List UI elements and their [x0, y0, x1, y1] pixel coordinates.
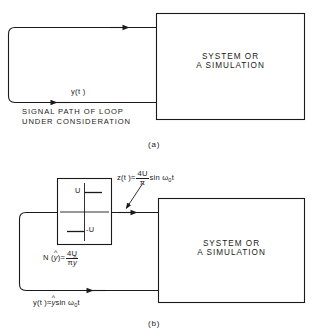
feedback-signal-label-a: y(t )	[71, 88, 86, 97]
df-denominator: π^y	[66, 259, 78, 267]
feedback-signal-expression-b: y(t )≈^ysin ω0t	[33, 299, 80, 308]
z-signal-name: z(t )	[117, 173, 131, 182]
z-trig: sin ω	[150, 173, 169, 182]
relay-output-signal-expression: z(t )≈4Uπsin ω0t	[117, 170, 174, 187]
system-block-a-line2: A SIMULATION	[156, 61, 305, 70]
signal-path-note-line1: SIGNAL PATH OF LOOP	[22, 107, 131, 117]
caption-a: (a)	[148, 140, 160, 149]
y-time-var: t	[78, 298, 80, 307]
hat-mark-icon: ^	[54, 249, 58, 256]
relay-lower-level-label: -U	[86, 226, 94, 235]
df-lhs-var-hat: ^y	[54, 254, 58, 263]
z-time-var: t	[172, 173, 174, 182]
y-trig: sin ω	[55, 298, 74, 307]
df-fraction: 4Uπ^y	[66, 250, 78, 267]
diagram-linework	[0, 0, 318, 336]
z-approx-symbol: ≈	[131, 173, 135, 182]
system-block-b-line2: A SIMULATION	[158, 248, 305, 257]
z-denominator: π	[136, 179, 148, 187]
system-block-b-label: SYSTEM OR A SIMULATION	[158, 239, 305, 258]
signal-path-note-a: SIGNAL PATH OF LOOP UNDER CONSIDERATION	[22, 107, 131, 128]
hat-mark-icon: ^	[52, 294, 56, 301]
z-fraction: 4Uπ	[136, 170, 148, 187]
system-block-a-line1: SYSTEM OR	[156, 52, 305, 61]
df-lhs-close: )=	[58, 253, 65, 262]
df-denominator-var-hat: ^y	[73, 259, 77, 267]
y-amplitude-hat: ^y	[51, 299, 55, 308]
system-block-a-label: SYSTEM OR A SIMULATION	[156, 52, 305, 71]
caption-b: (b)	[148, 319, 160, 328]
hat-mark-icon: ^	[73, 254, 77, 261]
loop-top-line-a	[9, 28, 157, 46]
describing-function-expression: N (^y)=4Uπ^y	[43, 250, 79, 267]
system-block-b-line1: SYSTEM OR	[158, 239, 305, 248]
df-lhs-text: N (	[43, 253, 54, 262]
signal-path-note-line2: UNDER CONSIDERATION	[22, 117, 131, 127]
relay-upper-level-label: U	[75, 187, 81, 196]
y-signal-name: y(t )	[33, 298, 47, 307]
figure-container: SYSTEM OR A SIMULATION y(t ) SIGNAL PATH…	[0, 0, 318, 336]
